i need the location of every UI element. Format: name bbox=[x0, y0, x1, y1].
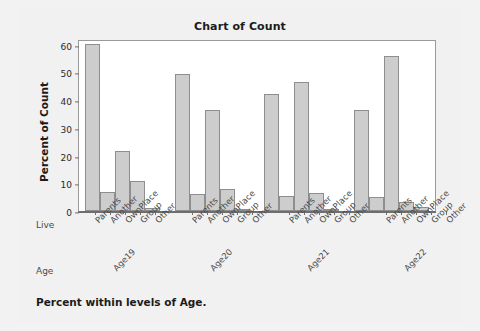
bar-slot bbox=[190, 41, 205, 211]
plot-area: 0102030405060 bbox=[78, 40, 436, 212]
bar-age21-parents[interactable] bbox=[264, 94, 279, 211]
bar-slot bbox=[175, 41, 190, 211]
y-tick-label: 30 bbox=[45, 125, 79, 135]
bar-slot bbox=[384, 41, 399, 211]
bar-age21-ownplace[interactable] bbox=[294, 82, 309, 211]
plot-edge-pad bbox=[429, 41, 435, 211]
y-tick-label: 40 bbox=[45, 97, 79, 107]
chart-title: Chart of Count bbox=[18, 20, 462, 33]
group-gap bbox=[160, 41, 175, 211]
bar-slot bbox=[354, 41, 369, 211]
y-tick-label: 20 bbox=[45, 153, 79, 163]
bar-slot bbox=[309, 41, 324, 211]
chart-card: Chart of Count Percent of Count 01020304… bbox=[18, 8, 462, 323]
bar-slot bbox=[85, 41, 100, 211]
bar-slot bbox=[100, 41, 115, 211]
bar-age19-parents[interactable] bbox=[85, 44, 100, 211]
bar-slot bbox=[399, 41, 414, 211]
bar-slot bbox=[279, 41, 294, 211]
bar-group-age21 bbox=[264, 41, 339, 211]
chart-footnote: Percent within levels of Age. bbox=[36, 296, 206, 308]
live-row-label: Live bbox=[36, 220, 54, 230]
bar-age22-parents[interactable] bbox=[354, 110, 369, 211]
bar-slot bbox=[115, 41, 130, 211]
bar-group-age19 bbox=[85, 41, 160, 211]
group-gap bbox=[339, 41, 354, 211]
bar-slot bbox=[369, 41, 384, 211]
y-tick-label: 50 bbox=[45, 69, 79, 79]
group-gap bbox=[250, 41, 265, 211]
y-tick-mark bbox=[75, 101, 79, 102]
y-tick-mark bbox=[75, 157, 79, 158]
bar-slot bbox=[205, 41, 220, 211]
y-tick-mark bbox=[75, 74, 79, 75]
bar-age20-parents[interactable] bbox=[175, 74, 190, 211]
bar-slot bbox=[220, 41, 235, 211]
bar-slot bbox=[145, 41, 160, 211]
bar-slot bbox=[294, 41, 309, 211]
group-labels: Age19Age20Age21Age22 bbox=[78, 264, 436, 300]
y-tick-mark bbox=[75, 46, 79, 47]
y-tick-mark bbox=[75, 185, 79, 186]
y-tick-label: 10 bbox=[45, 180, 79, 190]
y-tick-label: 60 bbox=[45, 42, 79, 52]
bar-slot bbox=[414, 41, 429, 211]
bar-age22-another[interactable] bbox=[369, 197, 384, 211]
bar-age22-ownplace[interactable] bbox=[384, 56, 399, 211]
bar-age21-another[interactable] bbox=[279, 196, 294, 211]
bar-group-age22 bbox=[354, 41, 429, 211]
screenshot-root: Chart of Count Percent of Count 01020304… bbox=[0, 0, 480, 331]
bar-slot bbox=[264, 41, 279, 211]
bar-slot bbox=[130, 41, 145, 211]
bar-slot bbox=[324, 41, 339, 211]
y-tick-mark bbox=[75, 129, 79, 130]
bars-container bbox=[79, 41, 435, 211]
bar-group-age20 bbox=[175, 41, 250, 211]
age-row-label: Age bbox=[36, 266, 53, 276]
y-tick-label: 0 bbox=[45, 208, 79, 218]
bar-slot bbox=[235, 41, 250, 211]
